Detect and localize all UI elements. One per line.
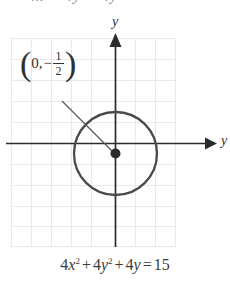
fraction-numerator: 1 [54, 50, 64, 62]
caption-coef-3: 4 [126, 256, 134, 273]
open-paren: ( [20, 50, 31, 78]
x-axis-arrowhead [205, 138, 217, 150]
minus-sign: − [44, 56, 52, 71]
caption-var-2: y [101, 256, 108, 273]
center-point-annotation: ( 0 , − 1 2 ) [20, 50, 76, 78]
caption-coef-2: 4 [93, 256, 101, 273]
equation-caption: 4x2+4y2+4y=15 [0, 256, 230, 274]
caption-plus-1: + [80, 256, 93, 273]
caption-plus-2: + [113, 256, 126, 273]
caption-equals: = [141, 256, 154, 273]
caption-exp-2: 2 [108, 256, 113, 266]
center-point-marker [111, 149, 121, 159]
fraction-denominator: 2 [54, 65, 64, 77]
coordinate-comma: , [39, 56, 43, 71]
fraction-one-half: 1 2 [53, 50, 64, 77]
x-coordinate-value: 0 [31, 56, 39, 71]
close-paren: ) [65, 50, 76, 78]
coordinate-plane [0, 0, 230, 258]
caption-rhs: 15 [154, 256, 170, 273]
caption-var-3: y [134, 256, 141, 273]
y-axis-arrowhead [110, 33, 122, 47]
leader-line [62, 101, 113, 152]
figure-container: 4x + 4y + 4y = y y [0, 0, 230, 284]
